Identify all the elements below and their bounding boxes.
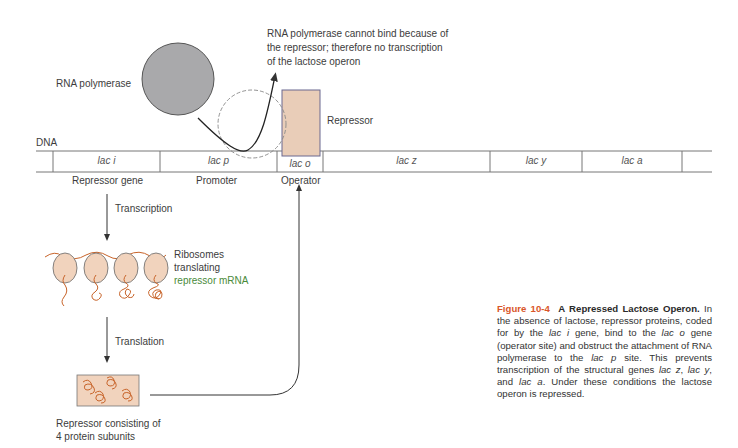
ribosome-group — [45, 252, 168, 306]
promoter-label: Promoter — [196, 175, 237, 187]
dna-label: DNA — [36, 137, 57, 149]
blocked-polymerase-outline — [218, 90, 286, 158]
repressor-bound-operator — [282, 90, 320, 156]
repressor-binding-arrow — [150, 187, 299, 395]
repressor-complex-label-2: 4 protein subunits — [56, 431, 135, 443]
gene-lac-p: lac p — [160, 155, 277, 166]
translation-label: Translation — [115, 336, 164, 348]
gene-lac-z: lac z — [323, 155, 490, 166]
annotation-line-3: of the lactose operon — [267, 56, 360, 68]
ribosome-label-2: translating — [174, 262, 220, 274]
gene-lac-y: lac y — [490, 155, 582, 166]
caption-gene: lac i — [549, 327, 569, 338]
ribosome-icon — [114, 253, 138, 298]
rna-polymerase-icon — [142, 43, 214, 115]
gene-lac-i: lac i — [53, 155, 160, 166]
gene-lac-a: lac a — [582, 155, 682, 166]
caption-gene: lac p — [591, 352, 616, 363]
caption-text: gene, bind to the — [569, 327, 661, 338]
gene-lac-o: lac o — [277, 158, 323, 169]
caption-gene: lac o — [662, 327, 685, 338]
operator-label: Operator — [281, 175, 320, 187]
ribosome-label-1: Ribosomes — [174, 249, 224, 261]
rna-polymerase-label: RNA polymerase — [56, 78, 131, 90]
transcription-label: Transcription — [115, 203, 172, 215]
repressor-complex — [77, 375, 139, 406]
repressor-label: Repressor — [327, 115, 373, 127]
caption-gene: lac a — [519, 376, 543, 387]
caption-gene: lac z — [659, 364, 681, 375]
figure-number: Figure 10-4 — [497, 303, 550, 314]
caption-gene: lac y — [688, 364, 710, 375]
annotation-line-1: RNA polymerase cannot bind because of — [267, 28, 448, 40]
repressor-gene-label: Repressor gene — [72, 175, 143, 187]
caption-text: , — [681, 364, 688, 375]
ribosome-icon — [84, 253, 108, 300]
figure-caption: Figure 10-4 A Repressed Lactose Operon. … — [497, 303, 712, 401]
annotation-line-2: the repressor; therefore no transcriptio… — [267, 42, 443, 54]
ribosome-icon — [144, 253, 168, 299]
repressor-complex-label-1: Repressor consisting of — [56, 418, 161, 430]
figure-title: A Repressed Lactose Operon. — [558, 303, 699, 314]
ribosome-icon — [53, 253, 77, 306]
ribosome-label-3: repressor mRNA — [174, 275, 248, 287]
